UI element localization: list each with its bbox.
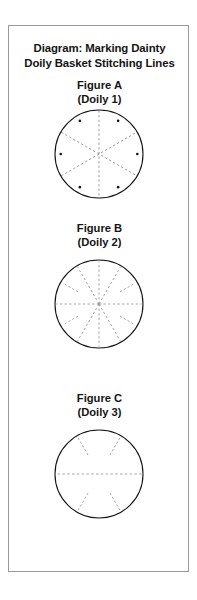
figure-b-sublabel: (Doily 2) [9,235,190,249]
guide-line [99,267,120,304]
figure-b-guide-lines [56,261,141,346]
figure-b-label: Figure B [77,222,122,234]
guide-line [78,267,99,304]
figure-c-block: Figure C (Doily 3) [9,391,190,515]
guide-line [78,304,99,341]
guide-line [110,493,120,510]
figure-a-drawing [9,106,190,202]
figure-b-canvas [9,249,190,345]
figure-a-guide-lines [61,110,136,197]
marker-dot [117,120,120,123]
marker-dot [59,153,62,156]
diagram-sheet-inner: Diagram: Marking Dainty Doily Basket Sti… [9,26,190,573]
figure-c-guide-lines [56,438,141,510]
guide-line [63,316,78,325]
figure-b-caption: Figure B (Doily 2) [9,221,190,249]
figure-a-block: Figure A (Doily 1) [9,78,190,202]
guide-line [120,283,135,292]
figure-c-sublabel: (Doily 3) [9,405,190,419]
figure-a-canvas [9,106,190,202]
figure-c-label: Figure C [77,392,122,404]
figure-b-block: Figure B (Doily 2) [9,221,190,345]
figure-a-sublabel: (Doily 1) [9,92,190,106]
figure-c-drawing [9,419,190,523]
diagram-page: Diagram: Marking Dainty Doily Basket Sti… [0,0,197,600]
guide-line [63,283,78,292]
figure-c-canvas [9,419,190,515]
marker-dot [136,153,139,156]
figure-a-label: Figure A [77,79,122,91]
figure-a-caption: Figure A (Doily 1) [9,78,190,106]
page-title-line-2: Doily Basket Stitching Lines [24,57,174,69]
guide-line [120,316,135,325]
figure-b-drawing [9,249,190,353]
guide-line [78,493,88,510]
guide-line [110,438,120,455]
page-title: Diagram: Marking Dainty Doily Basket Sti… [9,41,190,71]
figure-c-caption: Figure C (Doily 3) [9,391,190,419]
page-title-line-1: Diagram: Marking Dainty [34,42,166,54]
marker-dot [79,186,82,189]
guide-line [78,438,88,455]
diagram-sheet-frame: Diagram: Marking Dainty Doily Basket Sti… [8,25,189,572]
guide-line [99,304,120,341]
marker-dot [79,120,82,123]
marker-dot [117,186,120,189]
